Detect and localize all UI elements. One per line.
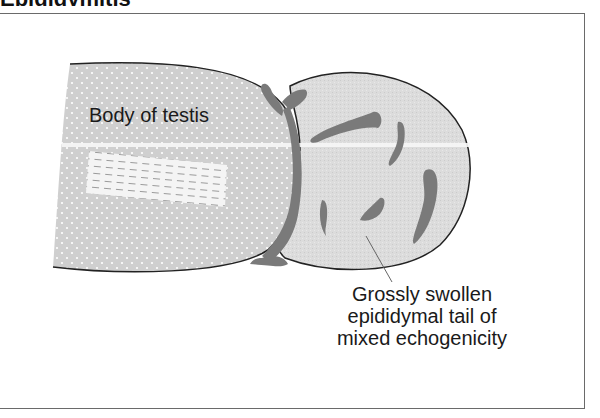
label-body-of-testis: Body of testis: [89, 104, 209, 126]
label-epididymal-tail: Grossly swollen epididymal tail of mixed…: [312, 283, 532, 349]
label-epididymal-line-2: epididymal tail of: [312, 305, 532, 327]
epididymis-tail: [273, 73, 470, 270]
label-epididymal-line-1: Grossly swollen: [312, 283, 532, 305]
ultrasound-diagram: [0, 0, 600, 418]
label-epididymal-line-3: mixed echogenicity: [312, 327, 532, 349]
scan-line-artifact: [62, 143, 470, 147]
